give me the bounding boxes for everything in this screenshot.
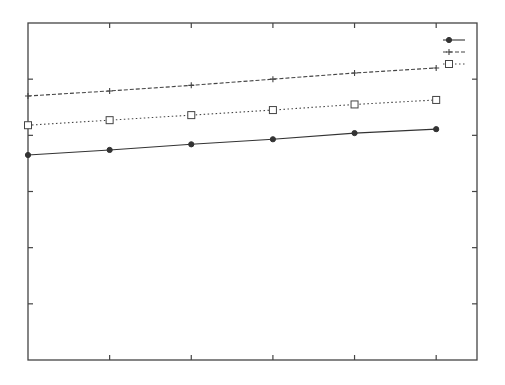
diamond-marker — [189, 142, 194, 147]
series-line — [28, 68, 436, 96]
series-3 — [25, 96, 440, 128]
plot-border — [28, 23, 477, 360]
diamond-marker — [25, 152, 30, 157]
legend-entry-3 — [443, 61, 465, 68]
series-1 — [25, 127, 438, 158]
diamond-marker — [434, 127, 439, 132]
plus-marker — [352, 70, 358, 76]
square-marker — [446, 61, 453, 68]
diamond-marker — [352, 130, 357, 135]
square-marker — [433, 96, 440, 103]
series-line — [28, 100, 436, 125]
plot-frame — [28, 23, 477, 360]
plus-marker — [188, 82, 194, 88]
data-series — [25, 65, 440, 158]
series-line — [28, 129, 436, 155]
line-chart — [0, 0, 505, 385]
square-marker — [351, 101, 358, 108]
square-marker — [25, 122, 32, 129]
diamond-marker — [270, 137, 275, 142]
legend-entry-2 — [443, 49, 465, 55]
plus-marker — [433, 65, 439, 71]
square-marker — [188, 112, 195, 119]
diamond-marker — [107, 147, 112, 152]
plus-marker — [446, 49, 452, 55]
square-marker — [269, 107, 276, 114]
square-marker — [106, 117, 113, 124]
plus-marker — [107, 88, 113, 94]
plus-marker — [270, 76, 276, 82]
legend — [443, 37, 465, 67]
legend-entry-1 — [443, 37, 465, 42]
diamond-marker — [446, 37, 451, 42]
axis-ticks — [28, 23, 477, 360]
series-2 — [25, 65, 439, 99]
plus-marker — [25, 93, 31, 99]
